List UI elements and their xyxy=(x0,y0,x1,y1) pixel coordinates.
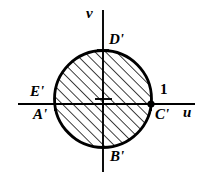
point-label-e-prime: E' xyxy=(30,84,44,99)
hatched-disk-fill xyxy=(50,46,158,154)
v-axis-label: v xyxy=(86,6,93,21)
figure-canvas: v u D' B' E' A' C' 1 xyxy=(0,0,207,176)
point-label-d-prime: D' xyxy=(109,32,124,47)
point-label-a-prime: A' xyxy=(33,107,47,122)
point-label-b-prime: B' xyxy=(110,149,124,164)
point-label-c-prime: C' xyxy=(155,107,169,122)
u-axis-label: u xyxy=(183,105,191,120)
unit-value-label: 1 xyxy=(160,82,168,97)
